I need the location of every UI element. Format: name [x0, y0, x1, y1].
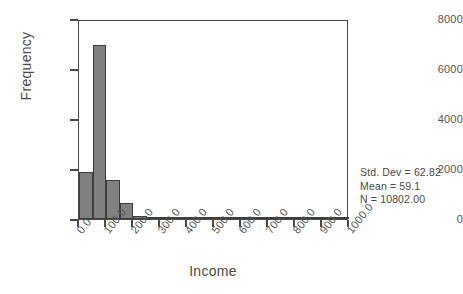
y-axis-tick-label: 0 — [391, 214, 463, 225]
y-axis-tick-label: 6000 — [391, 64, 463, 75]
y-axis-tick — [70, 19, 78, 21]
y-axis-tick — [70, 69, 78, 71]
n-text: N = 10802.00 — [360, 193, 441, 207]
statistics-annotation: Std. Dev = 62.82 Mean = 59.1 N = 10802.0… — [360, 166, 441, 207]
x-axis-title: Income — [78, 263, 348, 279]
y-axis-title: Frequency — [18, 0, 34, 136]
y-axis-tick-label: 8000 — [391, 14, 463, 25]
y-axis-tick-label: 4000 — [391, 114, 463, 125]
plot-area — [78, 20, 348, 220]
mean-text: Mean = 59.1 — [360, 180, 441, 194]
histogram-figure: Frequency 02000400060008000 0.0100.0200.… — [0, 0, 463, 294]
histogram-bar — [93, 45, 107, 219]
std-dev-text: Std. Dev = 62.82 — [360, 166, 441, 180]
x-axis-tick-label: 1000.0 — [345, 202, 375, 236]
y-axis-tick — [70, 169, 78, 171]
histogram-bar — [79, 172, 93, 219]
y-axis-tick — [70, 119, 78, 121]
bars-layer — [79, 21, 347, 219]
